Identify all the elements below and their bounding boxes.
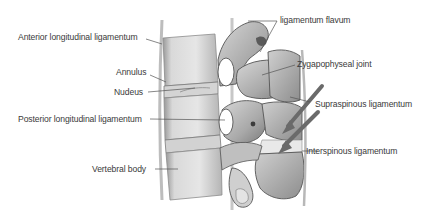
- label-ligamentum-flavum: ligamentum flavum: [280, 15, 350, 25]
- label-interspinous-ligament: Interspinous ligamentum: [306, 146, 397, 156]
- label-nucleus: Nudeus: [114, 87, 143, 97]
- label-annulus: Annulus: [116, 67, 146, 77]
- spine-diagram: Anterior longitudinal ligamentum Annulus…: [0, 0, 425, 214]
- label-vertebral-body: Vertebral body: [92, 164, 146, 174]
- label-posterior-longitudinal-ligament: Posterior longitudinal ligamentum: [18, 114, 142, 124]
- label-supraspinous-ligament: Supraspinous ligamentum: [315, 99, 412, 109]
- anterior-ligament: [160, 20, 162, 200]
- label-zygapophyseal-joint: Zygapophyseal joint: [297, 59, 372, 69]
- vertebral-bodies: [163, 34, 222, 200]
- label-anterior-longitudinal-ligament: Anterior longitudinal ligamentum: [18, 32, 138, 42]
- leader-annulus: [150, 75, 166, 82]
